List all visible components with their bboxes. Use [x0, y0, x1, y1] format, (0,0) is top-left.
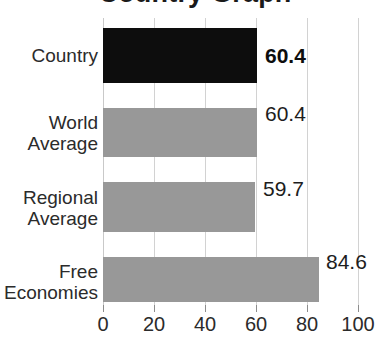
- bar-country[interactable]: [103, 28, 257, 83]
- tick-mark-20: [154, 305, 155, 312]
- chart-title: Country Graph: [0, 0, 390, 8]
- tick-mark-0: [103, 305, 104, 312]
- category-label-world-average: World Average: [28, 112, 98, 154]
- bar-regional-average[interactable]: [103, 182, 255, 232]
- value-label-world-average: 60.4: [265, 102, 306, 126]
- bar-chart: Country Graph Country World Average Regi…: [0, 0, 390, 353]
- plot-area: [103, 18, 358, 305]
- value-label-regional-average: 59.7: [263, 177, 304, 201]
- xtick-label-20: 20: [143, 313, 165, 336]
- tick-mark-40: [205, 305, 206, 312]
- xtick-label-0: 0: [97, 313, 108, 336]
- bar-free-economies[interactable]: [103, 257, 319, 302]
- tick-mark-60: [256, 305, 257, 312]
- xtick-label-100: 100: [341, 313, 374, 336]
- tick-mark-100: [358, 305, 359, 312]
- value-label-country: 60.4: [265, 44, 306, 68]
- value-label-free-economies: 84.6: [326, 250, 367, 274]
- category-label-free-economies: Free Economies: [4, 261, 98, 303]
- tick-mark-80: [307, 305, 308, 312]
- xtick-label-60: 60: [245, 313, 267, 336]
- category-label-country: Country: [31, 45, 98, 66]
- bar-world-average[interactable]: [103, 108, 257, 157]
- xtick-label-40: 40: [194, 313, 216, 336]
- category-label-regional-average: Regional Average: [23, 187, 98, 229]
- xtick-label-80: 80: [296, 313, 318, 336]
